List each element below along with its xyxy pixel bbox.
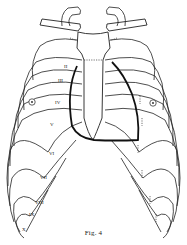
cartilage-junctions (138, 96, 156, 222)
right-ribs (105, 39, 180, 238)
rib-label-iv: IV (55, 100, 61, 105)
rib-label-ii: II (64, 64, 68, 69)
left-ribs (7, 39, 82, 238)
heart-outline (70, 62, 139, 141)
rib-label-vii: VII (40, 175, 47, 180)
rib-label-ix: IX (29, 212, 35, 217)
clavicles (40, 19, 147, 31)
rib-label-v: V (50, 122, 54, 127)
rib-label-iii: III (58, 78, 63, 83)
rib-label-viii: VIII (35, 200, 44, 205)
rib-label-vi: VI (49, 151, 55, 156)
figure-caption: Fig. 4 (0, 229, 187, 237)
rib-cage-diagram: II III IV V VI VII VIII IX X (0, 0, 187, 245)
